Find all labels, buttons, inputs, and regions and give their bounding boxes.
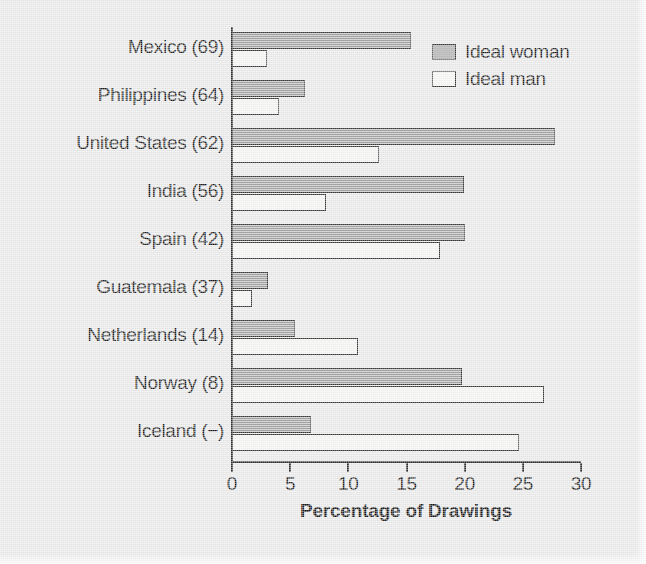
x-tick-label-25: 25 — [512, 473, 533, 495]
bar — [232, 242, 440, 259]
page-edge-bottom — [0, 554, 646, 564]
category-label: United States (62) — [76, 132, 224, 154]
x-tick-label-5: 5 — [285, 473, 295, 495]
bar — [232, 50, 267, 67]
legend-item-man: Ideal man — [432, 65, 569, 92]
category-label: Mexico (69) — [128, 36, 224, 58]
x-axis-title: Percentage of Drawings — [231, 500, 581, 522]
bar — [232, 338, 358, 355]
bar — [232, 32, 411, 49]
x-tick-10 — [347, 463, 349, 472]
bar — [232, 416, 311, 433]
x-tick-20 — [464, 463, 466, 472]
bar — [232, 146, 379, 163]
x-tick-label-15: 15 — [396, 473, 417, 495]
bar — [232, 224, 465, 241]
x-tick-label-0: 0 — [227, 473, 237, 495]
bar — [232, 98, 279, 115]
x-tick-30 — [580, 463, 582, 472]
category-label: India (56) — [147, 180, 224, 202]
category-label: Spain (42) — [139, 228, 224, 250]
x-tick-5 — [289, 463, 291, 472]
legend-label: Ideal woman — [465, 41, 569, 63]
legend-swatch-icon — [432, 44, 456, 60]
bar — [232, 272, 268, 289]
chart-legend: Ideal womanIdeal man — [432, 38, 569, 92]
bar — [232, 176, 464, 193]
bar — [232, 290, 252, 307]
bar — [232, 320, 295, 337]
x-tick-label-10: 10 — [338, 473, 359, 495]
bar-chart-figure: 051015202530 Mexico (69)Philippines (64)… — [0, 0, 646, 564]
category-label: Netherlands (14) — [87, 324, 224, 346]
category-label: Norway (8) — [134, 372, 224, 394]
x-tick-0 — [231, 463, 233, 472]
category-label: Philippines (64) — [98, 84, 224, 106]
category-label: Guatemala (37) — [96, 276, 224, 298]
page-edge-right — [636, 0, 646, 564]
x-tick-15 — [406, 463, 408, 472]
bar — [232, 80, 305, 97]
legend-swatch-icon — [432, 71, 456, 87]
legend-item-woman: Ideal woman — [432, 38, 569, 65]
bar — [232, 434, 519, 451]
bar — [232, 194, 326, 211]
bar — [232, 128, 555, 145]
category-label: Iceland (−) — [137, 420, 224, 442]
legend-label: Ideal man — [465, 68, 546, 90]
x-tick-25 — [522, 463, 524, 472]
x-tick-label-30: 30 — [571, 473, 592, 495]
x-tick-label-20: 20 — [454, 473, 475, 495]
bar — [232, 386, 544, 403]
bar — [232, 368, 462, 385]
